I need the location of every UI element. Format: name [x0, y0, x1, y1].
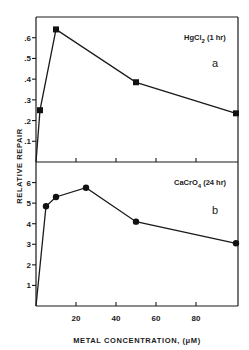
x-tick-label: 20: [72, 314, 81, 323]
y-tick-label: .4: [24, 75, 31, 84]
panel-b-series: [36, 185, 239, 306]
y-tick-label: 6: [27, 179, 32, 188]
y-tick-label: .5: [24, 54, 31, 63]
panel-a-y-ticks: .1.2.3.4.5.6: [24, 34, 36, 147]
x-tick-label: 60: [152, 314, 161, 323]
series-line: [36, 29, 236, 162]
x-tick-labels: 20406080: [72, 314, 201, 323]
plot-frame: [36, 17, 238, 306]
x-tick-label: 40: [112, 314, 121, 323]
data-point: [43, 203, 49, 209]
panel-a-series: [36, 26, 239, 162]
y-tick-label: 2: [27, 261, 32, 270]
panel-b-label: b: [212, 204, 218, 216]
y-axis-label: RELATIVE REPAIR: [15, 128, 24, 203]
y-tick-label: 5: [27, 199, 32, 208]
series-line: [36, 188, 236, 306]
y-tick-label: .6: [24, 34, 31, 43]
y-tick-label: .1: [24, 137, 31, 146]
panel-b: 123456 CaCrO4 (24 hr) b: [27, 178, 240, 306]
y-tick-label: .3: [24, 96, 31, 105]
data-point: [37, 107, 43, 113]
panel-b-y-ticks: 123456: [27, 179, 36, 291]
data-point: [133, 79, 139, 85]
data-point: [83, 185, 89, 191]
data-point: [233, 110, 239, 116]
figure: .1.2.3.4.5.6 HgCl2 (1 hr) a 123456 CaCrO…: [0, 0, 249, 350]
y-tick-label: 4: [27, 220, 32, 229]
y-tick-label: 1: [27, 281, 32, 290]
panel-b-annotation: CaCrO4 (24 hr): [174, 178, 227, 189]
y-tick-label: .2: [24, 117, 31, 126]
data-point: [133, 218, 139, 224]
y-tick-label: 3: [27, 240, 32, 249]
panel-a-label: a: [212, 57, 219, 69]
data-point: [53, 26, 59, 32]
x-tick-label: 80: [192, 314, 201, 323]
x-axis-label: METAL CONCENTRATION, (μM): [73, 336, 201, 345]
data-point: [233, 240, 239, 246]
data-point: [53, 194, 59, 200]
panel-a-annotation: HgCl2 (1 hr): [184, 33, 226, 44]
panel-a: .1.2.3.4.5.6 HgCl2 (1 hr) a: [24, 26, 239, 162]
